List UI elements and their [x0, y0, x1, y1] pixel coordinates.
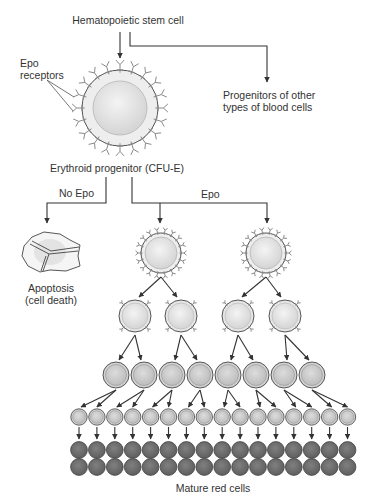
- apoptosis-label-1: Apoptosis: [28, 282, 74, 294]
- mature-red-cell: [106, 442, 123, 459]
- mature-red-cell: [178, 442, 195, 459]
- mature-red-cell: [71, 442, 88, 459]
- mature-red-cell: [71, 459, 88, 476]
- progenitor-branch-arrows: [47, 177, 267, 223]
- dividing-cell: [119, 300, 151, 332]
- stem-cell-arrows: [120, 32, 267, 82]
- stem-cell-label: Hematopoietic stem cell: [72, 14, 183, 26]
- mature-red-cell: [89, 459, 106, 476]
- reticulocyte-cell: [232, 409, 248, 425]
- epo-receptors-label-1: Epo: [20, 57, 39, 69]
- mature-red-cell: [178, 459, 195, 476]
- mature-red-cell: [339, 459, 356, 476]
- cell-lineage-tree: [71, 227, 356, 475]
- mature-red-cell: [160, 459, 177, 476]
- no-epo-label: No Epo: [59, 187, 94, 199]
- reticulocyte-cell: [107, 409, 123, 425]
- mature-red-cell: [321, 459, 338, 476]
- erythroid-progenitor-label: Erythroid progenitor (CFU-E): [50, 162, 184, 174]
- mature-red-cell: [124, 442, 141, 459]
- reticulocyte-cell: [142, 409, 158, 425]
- erythroblast-cell: [271, 362, 297, 388]
- mature-red-cell: [160, 442, 177, 459]
- reticulocyte-cell: [178, 409, 194, 425]
- mature-red-cell: [303, 442, 320, 459]
- mature-red-cell: [142, 459, 159, 476]
- reticulocyte-cell: [304, 409, 320, 425]
- erythroblast-cell: [159, 362, 185, 388]
- mature-red-cells-label: Mature red cells: [176, 482, 251, 494]
- erythroblast-cell: [243, 362, 269, 388]
- erythroblast-cell: [299, 362, 325, 388]
- dividing-cell: [269, 300, 301, 332]
- epo-receptors-label-2: receptors: [20, 69, 64, 81]
- mature-red-cell: [250, 459, 267, 476]
- reticulocyte-cell: [125, 409, 141, 425]
- mature-red-cell: [142, 442, 159, 459]
- epo-dependent-cell: [241, 227, 292, 278]
- mature-red-cell: [89, 442, 106, 459]
- apoptotic-cell: [22, 232, 80, 272]
- mature-red-cell: [124, 459, 141, 476]
- erythroblast-cell: [131, 362, 157, 388]
- erythroid-progenitor-cell: [72, 60, 168, 156]
- mature-red-cell: [214, 442, 231, 459]
- mature-red-cell: [232, 442, 249, 459]
- reticulocyte-cell: [321, 409, 337, 425]
- reticulocyte-cell: [268, 409, 284, 425]
- epo-label: Epo: [201, 188, 220, 200]
- reticulocyte-cell: [286, 409, 302, 425]
- mature-red-cell: [232, 459, 249, 476]
- erythroblast-cell: [103, 362, 129, 388]
- reticulocyte-cell: [339, 409, 355, 425]
- mature-red-cell: [268, 442, 285, 459]
- reticulocyte-cell: [71, 409, 87, 425]
- epo-receptor-pointers: [47, 80, 74, 111]
- reticulocyte-cell: [160, 409, 176, 425]
- mature-red-cell: [285, 459, 302, 476]
- mature-red-cell: [214, 459, 231, 476]
- apoptosis-label-2: (cell death): [25, 294, 77, 306]
- reticulocyte-cell: [250, 409, 266, 425]
- mature-red-cell: [106, 459, 123, 476]
- erythroblast-cell: [215, 362, 241, 388]
- reticulocyte-cell: [89, 409, 105, 425]
- mature-red-cell: [250, 442, 267, 459]
- other-progenitors-label-2: types of blood cells: [223, 101, 312, 113]
- mature-red-cell: [321, 442, 338, 459]
- reticulocyte-cell: [196, 409, 212, 425]
- reticulocyte-cell: [214, 409, 230, 425]
- mature-red-cell: [268, 459, 285, 476]
- mature-red-cell: [303, 459, 320, 476]
- dividing-cell: [222, 300, 254, 332]
- mature-red-cell: [196, 442, 213, 459]
- other-progenitors-label-1: Progenitors of other: [223, 89, 315, 101]
- epo-dependent-cell: [136, 227, 187, 278]
- mature-red-cell: [196, 459, 213, 476]
- dividing-cell: [165, 300, 197, 332]
- erythroblast-cell: [187, 362, 213, 388]
- mature-red-cell: [285, 442, 302, 459]
- mature-red-cell: [339, 442, 356, 459]
